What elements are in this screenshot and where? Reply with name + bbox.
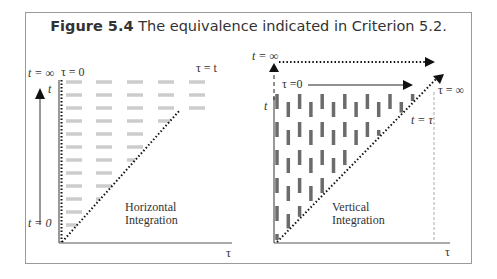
right-label-integration-2: Integration bbox=[332, 213, 385, 227]
right-t-inf-arrow-head-icon bbox=[425, 57, 435, 67]
time-arrow-head-icon bbox=[35, 88, 45, 99]
right-label-t-eq-tau: t = τ bbox=[411, 113, 433, 127]
right-t-arrow-head-icon bbox=[269, 63, 279, 72]
right-label-integration-1: Vertical bbox=[332, 200, 370, 214]
svg-text:t = ∞: t = ∞ bbox=[252, 49, 278, 63]
right-panel-vertical-integration: t = ∞ τ =0 t τ = ∞ t = τ τ Vertical Inte… bbox=[252, 49, 464, 259]
left-label-t-inf: t = ∞ bbox=[28, 66, 54, 80]
diagram-canvas: t = ∞ τ = 0 t τ = t t = 0 τ Horizontal I… bbox=[0, 0, 497, 279]
right-label-t-inf: t = ∞ bbox=[252, 49, 278, 63]
left-label-t-axis: t bbox=[48, 82, 52, 96]
left-label-integration-2: Integration bbox=[125, 213, 178, 227]
left-label-t0: t = 0 bbox=[28, 216, 51, 230]
left-label-tau0: τ = 0 bbox=[61, 65, 85, 79]
svg-text:t = ∞: t = ∞ bbox=[28, 66, 54, 80]
right-tau0-arrow-head-icon bbox=[403, 80, 413, 90]
right-label-tau-axis: τ bbox=[445, 245, 450, 259]
left-label-tau-eq-t: τ = t bbox=[196, 61, 218, 75]
right-label-t-axis: t bbox=[264, 99, 268, 113]
left-label-integration-1: Horizontal bbox=[125, 200, 177, 214]
right-label-tau-inf: τ = ∞ bbox=[438, 83, 464, 97]
left-panel-horizontal-integration: t = ∞ τ = 0 t τ = t t = 0 τ Horizontal I… bbox=[28, 61, 232, 260]
left-label-tau-axis: τ bbox=[226, 246, 231, 260]
right-label-tau0: τ =0 bbox=[282, 77, 303, 91]
